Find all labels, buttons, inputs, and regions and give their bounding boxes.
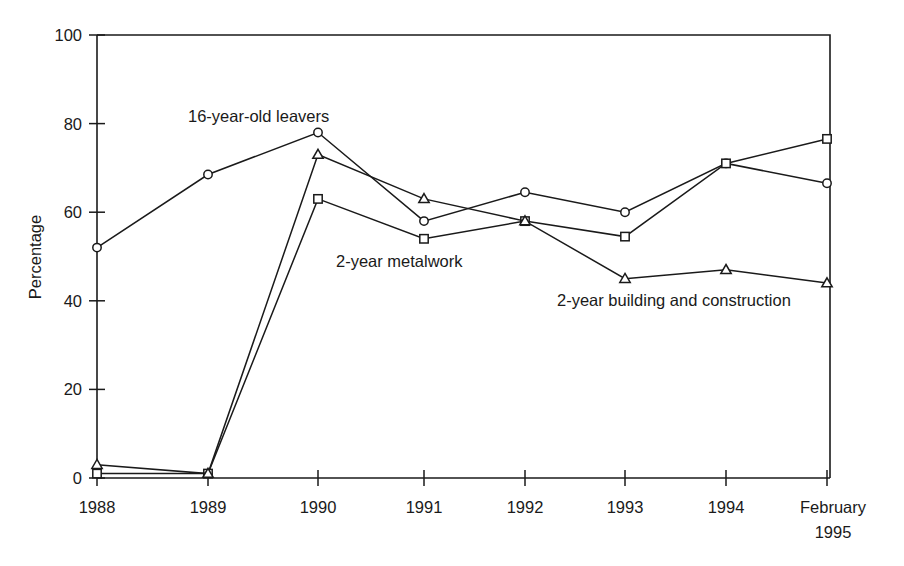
x-tick-label-1991: 1991 xyxy=(406,498,443,516)
annotation-2-year-metalwork: 2-year metalwork xyxy=(336,252,463,270)
data-point-marker xyxy=(420,235,428,243)
x-tick-label-1993: 1993 xyxy=(607,498,644,516)
y-axis-title: Percentage xyxy=(26,215,44,299)
data-point-marker xyxy=(721,265,731,274)
y-tick-label-0: 0 xyxy=(73,469,82,487)
y-tick-label-100: 100 xyxy=(54,26,82,44)
series-2-year-building-and-construction xyxy=(92,149,832,477)
x-tick-label-february-1995-line1: February xyxy=(800,498,867,516)
y-tick-label-20: 20 xyxy=(64,380,82,398)
data-point-marker xyxy=(823,179,831,187)
data-point-marker xyxy=(93,469,101,477)
y-tick-label-60: 60 xyxy=(64,203,82,221)
x-tick-label-1994: 1994 xyxy=(708,498,745,516)
data-point-marker xyxy=(722,159,730,167)
data-point-marker xyxy=(823,135,831,143)
x-tick-label-1989: 1989 xyxy=(190,498,227,516)
annotation-2-year-building-and-construction: 2-year building and construction xyxy=(557,291,791,309)
plot-frame xyxy=(97,35,830,478)
y-tick-label-40: 40 xyxy=(64,292,82,310)
data-point-marker xyxy=(420,217,428,225)
annotation-16-year-old-leavers: 16-year-old leavers xyxy=(188,107,329,125)
data-point-marker xyxy=(204,170,212,178)
data-point-marker xyxy=(621,208,629,216)
y-tick-label-80: 80 xyxy=(64,115,82,133)
data-point-marker xyxy=(313,149,323,158)
data-point-marker xyxy=(92,459,102,468)
series-16-year-old-leavers xyxy=(93,128,831,252)
chart-figure: 100 80 60 40 20 0 Percentage 1988 1989 1… xyxy=(0,0,904,566)
line-chart-canvas: 100 80 60 40 20 0 Percentage 1988 1989 1… xyxy=(0,0,904,566)
data-point-marker xyxy=(93,243,101,251)
x-tick-label-1990: 1990 xyxy=(300,498,337,516)
data-point-marker xyxy=(314,195,322,203)
x-tick-label-1992: 1992 xyxy=(507,498,544,516)
series-line-2-year-building-and-construction xyxy=(97,155,827,474)
data-point-marker xyxy=(521,188,529,196)
x-tick-label-february-1995-line2: 1995 xyxy=(815,523,852,541)
y-axis-tick-labels: 100 80 60 40 20 0 xyxy=(54,26,82,487)
data-point-marker xyxy=(314,128,322,136)
data-point-marker xyxy=(621,232,629,240)
series-line-16-year-old-leavers xyxy=(97,133,827,248)
x-axis-tick-labels: 1988 1989 1990 1991 1992 1993 1994 Febru… xyxy=(79,498,867,541)
x-tick-label-1988: 1988 xyxy=(79,498,116,516)
